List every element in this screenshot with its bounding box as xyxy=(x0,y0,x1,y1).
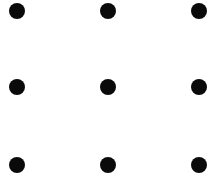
grid-dot xyxy=(191,79,207,95)
grid-dot xyxy=(191,157,207,173)
grid-dot xyxy=(100,3,116,19)
grid-dot xyxy=(191,3,207,19)
grid-dot xyxy=(100,79,116,95)
grid-dot xyxy=(9,3,25,19)
grid-dot xyxy=(9,79,25,95)
grid-dot xyxy=(100,157,116,173)
grid-dot xyxy=(9,157,25,173)
